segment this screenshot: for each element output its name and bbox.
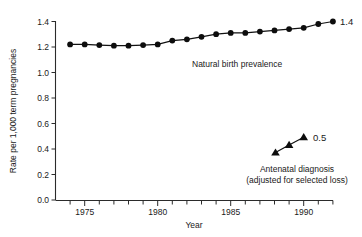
series-2-label-line2: (adjusted for selected loss) xyxy=(246,175,348,185)
y-axis-ticks xyxy=(52,22,56,201)
series-1-line xyxy=(70,22,333,46)
series-2-label-line1: Antenatal diagnosis xyxy=(260,164,334,174)
x-tick-label-1990: 1990 xyxy=(294,207,313,217)
x-tick-label-1975: 1975 xyxy=(75,207,94,217)
x-tick-label-1985: 1985 xyxy=(221,207,240,217)
y-tick-label-0-4: 0.4 xyxy=(37,144,49,154)
x-axis-ticks xyxy=(70,201,333,207)
series-2-endpoint-label: 0.5 xyxy=(313,132,326,143)
series-antenatal-diagnosis xyxy=(271,133,308,156)
series-1-label: Natural birth prevalence xyxy=(192,59,283,69)
y-tick-label-0-2: 0.2 xyxy=(37,170,49,180)
y-tick-label-1-4: 1.4 xyxy=(37,17,49,27)
y-tick-label-0-0: 0.0 xyxy=(37,195,49,205)
chart-plot-area: 1.4 1.2 1.0 0.8 0.6 0.4 0.2 0.0 xyxy=(0,0,362,237)
y-tick-label-1-0: 1.0 xyxy=(37,68,49,78)
y-tick-label-0-8: 0.8 xyxy=(37,93,49,103)
x-tick-label-1980: 1980 xyxy=(148,207,167,217)
y-axis-title: Rate per 1,000 term pregnancies xyxy=(8,49,18,173)
x-axis-title: Year xyxy=(185,220,202,230)
chart-figure: 1.4 1.2 1.0 0.8 0.6 0.4 0.2 0.0 xyxy=(0,0,362,237)
series-1-endpoint-label: 1.4 xyxy=(340,16,353,27)
series-natural-birth-prevalence xyxy=(67,19,336,49)
y-tick-label-0-6: 0.6 xyxy=(37,119,49,129)
y-tick-label-1-2: 1.2 xyxy=(37,42,49,52)
